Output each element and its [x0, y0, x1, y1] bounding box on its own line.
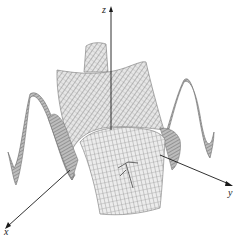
surface-plot — [0, 0, 237, 240]
surface-front-lobe — [80, 127, 165, 214]
z-axis-arrow-icon — [109, 6, 113, 12]
y-axis-label: y — [228, 188, 232, 198]
x-axis-label: x — [4, 227, 8, 237]
z-axis-label: z — [102, 5, 106, 15]
surface-back-lobe — [84, 43, 108, 72]
y-axis — [160, 155, 229, 184]
y-axis-arrow-icon — [225, 181, 233, 186]
